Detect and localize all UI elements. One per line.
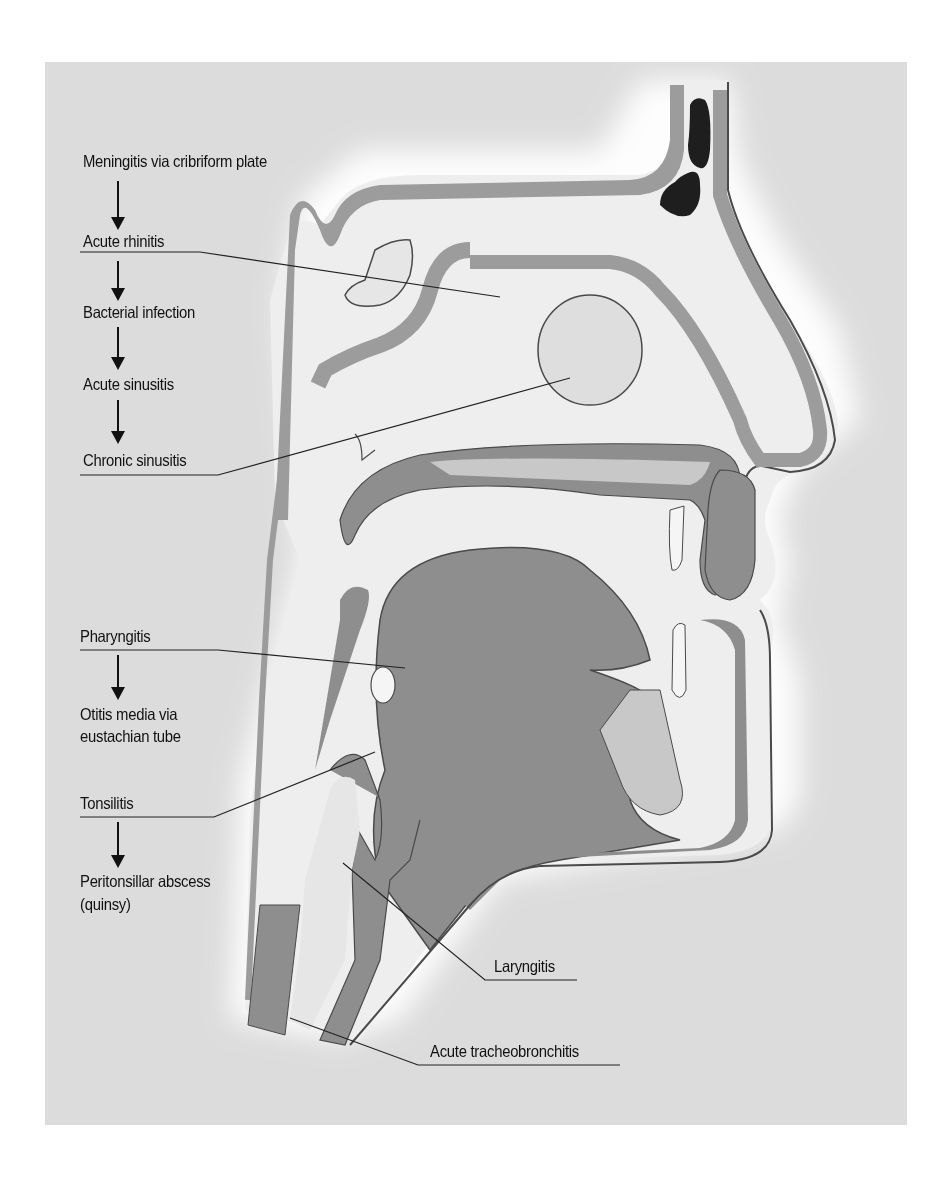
label-bacterial-infection: Bacterial infection (83, 301, 195, 323)
label-chronic-sinusitis: Chronic sinusitis (83, 449, 187, 471)
arrow-down-icon (111, 655, 125, 700)
label-laryngitis: Laryngitis (494, 955, 555, 977)
label-acute-rhinitis: Acute rhinitis (83, 230, 164, 252)
label-acute-sinusitis: Acute sinusitis (83, 373, 174, 395)
label-tracheobronchitis: Acute tracheobronchitis (430, 1040, 579, 1062)
label-peritonsillar-line1: Peritonsillar abscess (80, 870, 211, 892)
upper-lip (705, 470, 755, 600)
arrow-down-icon (111, 261, 125, 301)
arrow-down-icon (111, 181, 125, 230)
label-meningitis: Meningitis via cribriform plate (83, 150, 267, 172)
tonsil (371, 667, 395, 703)
lower-incisor (672, 623, 686, 697)
label-pharyngitis: Pharyngitis (80, 625, 150, 647)
label-otitis-line2: eustachian tube (80, 725, 181, 747)
arrow-down-icon (111, 400, 125, 444)
arrow-down-icon (111, 327, 125, 370)
label-tonsilitis: Tonsilitis (80, 792, 133, 814)
upper-incisor (669, 506, 684, 570)
frontal-sinus-upper (688, 98, 710, 168)
arrow-down-icon (111, 822, 125, 868)
label-otitis-line1: Otitis media via (80, 703, 177, 725)
label-peritonsillar-line2: (quinsy) (80, 893, 131, 915)
anatomy-illustration (45, 62, 907, 1125)
maxillary-sinus (538, 295, 642, 405)
diagram-panel (45, 62, 907, 1125)
